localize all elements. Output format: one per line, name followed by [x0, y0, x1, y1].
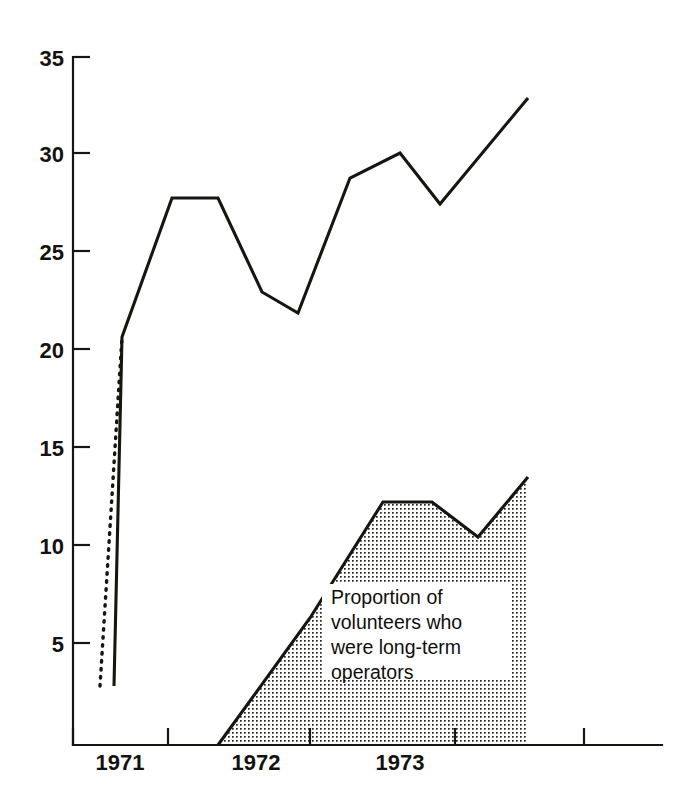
- x-tick-label-1971: 1971: [96, 750, 145, 775]
- chart-figure: Proportion of volunteers who were long-t…: [0, 0, 679, 797]
- y-tick-label-5: 5: [52, 632, 64, 657]
- y-axis-ticks: [73, 57, 90, 643]
- y-tick-label-35: 35: [40, 46, 64, 71]
- y-tick-label-25: 25: [40, 240, 64, 265]
- x-tick-label-1972: 1972: [232, 750, 281, 775]
- y-tick-label-20: 20: [40, 338, 64, 363]
- chart-canvas: Proportion of volunteers who were long-t…: [0, 0, 679, 797]
- annotation-line-1: Proportion of: [331, 586, 443, 608]
- y-tick-label-15: 15: [40, 436, 64, 461]
- x-tick-label-1973: 1973: [376, 750, 425, 775]
- y-tick-label-30: 30: [40, 142, 64, 167]
- area-annotation-callout: Proportion of volunteers who were long-t…: [322, 584, 510, 683]
- x-axis-tick-labels: 1971 1972 1973: [96, 750, 425, 775]
- annotation-line-2: volunteers who: [331, 611, 462, 633]
- annotation-line-4: operators: [331, 661, 414, 683]
- annotation-line-3: were long-term: [330, 636, 461, 658]
- y-tick-label-10: 10: [40, 534, 64, 559]
- y-axis-tick-labels: 35 30 25 20 15 10 5: [40, 46, 64, 657]
